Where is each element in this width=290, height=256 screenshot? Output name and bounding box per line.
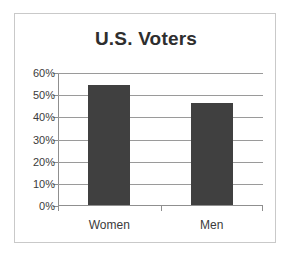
chart-screenshot: U.S. Voters 0%10%20%30%40%50%60% WomenMe… xyxy=(0,0,290,256)
bar-men xyxy=(191,103,233,205)
x-axis-label-women: Women xyxy=(89,218,130,232)
gridline xyxy=(58,73,263,74)
plot-area: 0%10%20%30%40%50%60% WomenMen xyxy=(58,73,263,206)
y-axis-label: 10% xyxy=(15,178,55,190)
y-axis-label: 30% xyxy=(15,134,55,146)
y-axis-label: 50% xyxy=(15,89,55,101)
y-axis-label: 60% xyxy=(15,67,55,79)
bar-women xyxy=(88,85,130,205)
y-axis-label: 40% xyxy=(15,111,55,123)
y-axis-label: 20% xyxy=(15,156,55,168)
y-axis-label: 0% xyxy=(15,200,55,212)
chart-frame: U.S. Voters 0%10%20%30%40%50%60% WomenMe… xyxy=(14,13,276,243)
chart-title: U.S. Voters xyxy=(15,28,277,50)
x-axis-label-men: Men xyxy=(200,218,223,232)
x-axis-labels-group: WomenMen xyxy=(58,208,263,228)
